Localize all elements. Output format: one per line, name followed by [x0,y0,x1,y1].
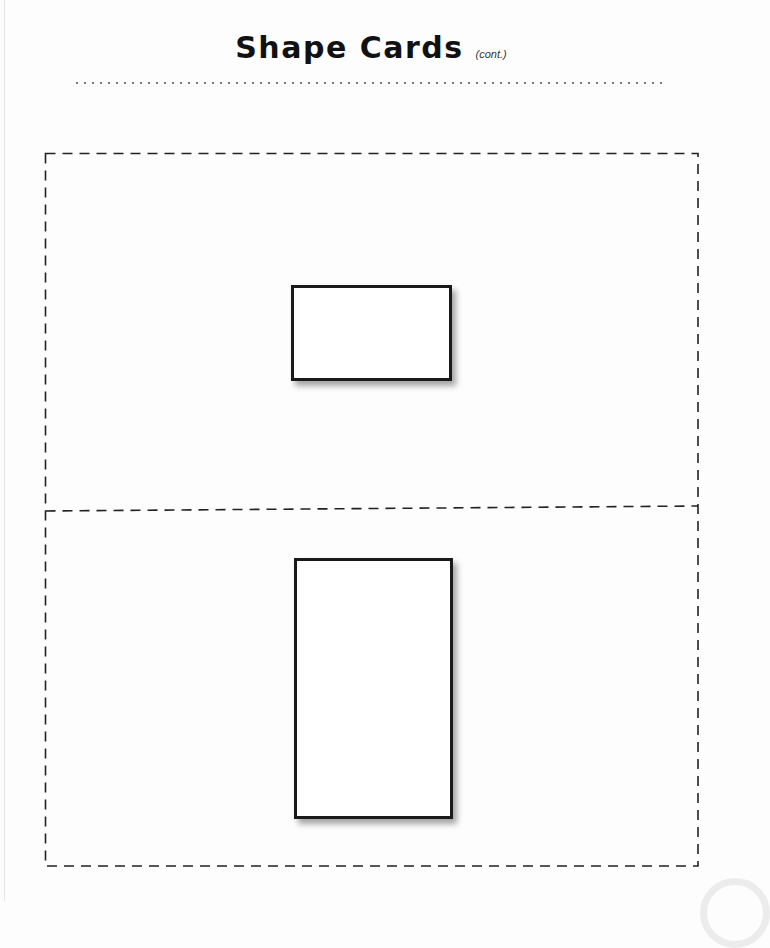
page-title: Shape Cards [235,30,463,65]
title-dotted-rule [73,82,667,84]
card-top [44,152,700,509]
shape-rectangle-landscape [291,285,452,381]
card-bottom [44,509,700,868]
card-sheet [44,152,700,868]
circle-watermark-icon [700,878,770,948]
page-title-suffix: (cont.) [476,48,507,60]
page-header: Shape Cards(cont.) [0,30,742,65]
page-edge-line [4,0,5,901]
shape-rectangle-portrait [294,558,453,819]
